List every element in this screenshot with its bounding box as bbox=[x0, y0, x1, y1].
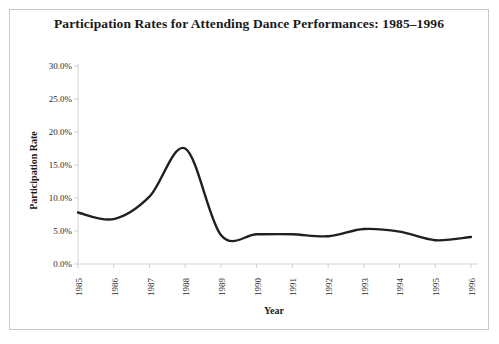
chart-figure: Participation Rates for Attending Dance … bbox=[0, 0, 499, 344]
data-series-line bbox=[78, 148, 471, 241]
plot-area bbox=[0, 0, 499, 344]
x-axis-ticks bbox=[78, 264, 471, 268]
y-axis-ticks bbox=[74, 66, 78, 264]
